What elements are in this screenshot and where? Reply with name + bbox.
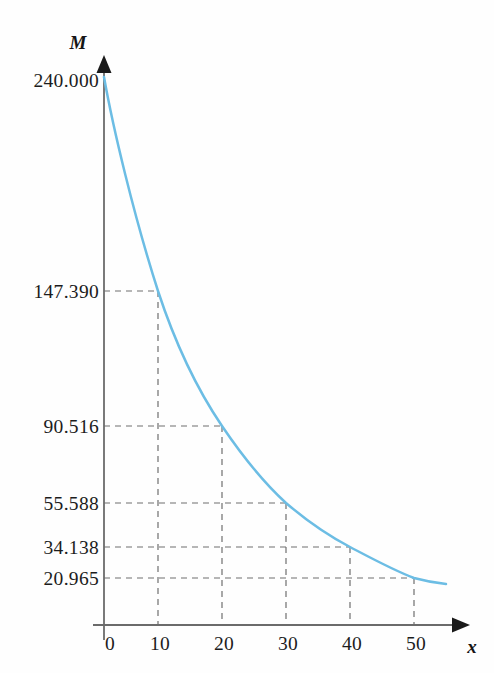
chart-figure: 240.000 147.390 90.516 55.588 34.138 20.… xyxy=(0,0,494,673)
x-tick-label-5: 50 xyxy=(406,633,426,654)
y-axis-label: M xyxy=(69,32,88,53)
axis-lines xyxy=(93,66,458,640)
x-tick-label-2: 20 xyxy=(214,633,234,654)
y-tick-labels: 240.000 147.390 90.516 55.588 34.138 20.… xyxy=(34,70,99,589)
x-tick-labels: 0 10 20 30 40 50 xyxy=(105,633,426,654)
y-tick-label-0: 240.000 xyxy=(34,70,99,91)
gridlines xyxy=(104,291,414,625)
x-tick-label-4: 40 xyxy=(342,633,362,654)
x-tick-label-1: 10 xyxy=(150,633,170,654)
decay-curve xyxy=(104,77,446,584)
x-axis-arrow-icon xyxy=(452,618,470,633)
y-tick-label-4: 34.138 xyxy=(44,537,99,558)
y-tick-label-1: 147.390 xyxy=(34,281,99,302)
y-tick-label-2: 90.516 xyxy=(44,416,99,437)
y-tick-label-5: 20.965 xyxy=(44,568,99,589)
x-axis-label: x xyxy=(466,636,477,657)
x-tick-label-3: 30 xyxy=(278,633,298,654)
exponential-decay-plot: 240.000 147.390 90.516 55.588 34.138 20.… xyxy=(0,0,494,673)
x-tick-label-0: 0 xyxy=(105,633,115,654)
y-tick-label-3: 55.588 xyxy=(44,493,99,514)
